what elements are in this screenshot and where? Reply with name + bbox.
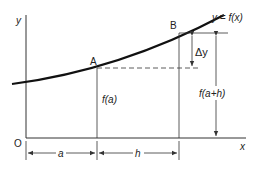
dim-h-label: h — [135, 148, 141, 159]
fa-label: f(a) — [102, 94, 117, 105]
origin-label: O — [14, 138, 22, 149]
point-a-label: A — [90, 56, 97, 67]
dim-a-label: a — [58, 148, 64, 159]
derivative-diagram: y x O y = f(x) A B f(a) Δy f(a+h) a h — [0, 0, 256, 169]
curve-label: y = f(x) — [211, 12, 243, 23]
point-b-label: B — [170, 20, 177, 31]
delta-y-label: Δy — [195, 46, 208, 58]
fah-label: f(a+h) — [199, 88, 225, 99]
x-axis-label: x — [239, 141, 246, 152]
y-axis-label: y — [15, 15, 22, 26]
